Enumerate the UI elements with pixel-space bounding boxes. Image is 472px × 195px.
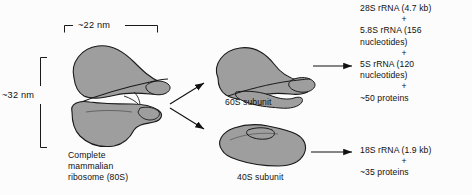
plus-separator: + [360,156,448,167]
subunit-40s-shape [220,125,306,166]
caption-line-3: ribosome (80S) [68,172,128,183]
caption-line-2: mammalian [68,161,128,172]
large-subunit-composition-list: 28S rRNA (4.7 kb)+5.8S rRNA (156nucleoti… [360,3,448,104]
large-subunit-component-item: nucleotides) [360,37,448,48]
large-subunit-component-item: 5.8S rRNA (156 [360,25,448,36]
large-subunit-component-item: 28S rRNA (4.7 kb) [360,3,448,14]
large-subunit-component-item: ~50 proteins [360,93,448,104]
ribosome-80s-caption: Complete mammalian ribosome (80S) [68,150,128,184]
height-dimension-label: ~32 nm [2,90,34,101]
plus-separator: + [360,14,448,25]
subunit-60s-caption: 60S subunit [225,97,272,108]
small-subunit-component-item: 18S rRNA (1.9 kb) [360,145,448,156]
plus-separator: + [360,48,448,59]
ribosome-80s-shape [72,46,170,147]
large-subunit-component-item: 5S rRNA (120 [360,59,448,70]
caption-line-1: Complete [68,150,128,161]
dimension-bracket-vertical-icon [41,58,48,148]
arrow-lower-right-icon [170,108,204,129]
ribosome-dissociation-diagram: ~22 nm ~32 nm Complete mammalian ribosom… [0,0,472,195]
subunit-40s-caption: 40S subunit [237,172,284,183]
large-subunit-component-item: nucleotides) [360,70,448,81]
width-dimension-label: ~22 nm [78,20,110,31]
arrow-upper-right-icon [170,83,204,104]
small-subunit-component-item: ~35 proteins [360,167,448,178]
plus-separator: + [360,81,448,92]
small-subunit-composition-list: 18S rRNA (1.9 kb)+~35 proteins [360,145,448,179]
